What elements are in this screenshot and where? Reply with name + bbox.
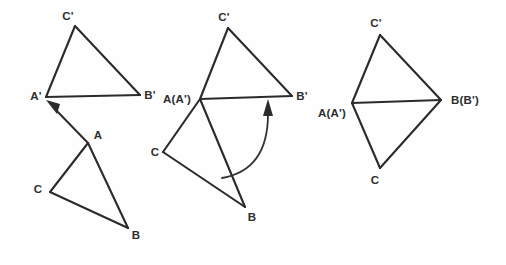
segment-c-prime-b-prime [75,26,140,95]
panel-result: C' A(A') B(B') C [318,17,479,186]
segment-a-prime-b-prime [352,100,441,103]
label-b-prime-panel2: B' [296,90,308,102]
panel-translation: C' A' B' A C B [30,10,156,241]
segment-a-c [50,143,88,192]
translation-vector-shaft [53,107,88,143]
segment-a-c [163,99,200,152]
segment-c-prime-b-prime [228,28,292,96]
triangle-abc [352,100,441,168]
segment-a-prime-c-prime [200,28,228,99]
label-b-b-prime-panel3: B(B') [451,94,479,106]
segment-a-c [352,103,380,168]
segment-c-prime-b-prime [380,35,441,100]
triangle-abc [163,99,245,207]
segment-a-prime-b-prime [200,96,292,99]
triangle-a-prime-b-prime-c-prime [46,26,140,97]
segment-a-prime-c-prime [352,35,380,103]
label-c-prime-panel1: C' [62,10,74,22]
segment-a-prime-b-prime [46,95,140,97]
rotation-arc [222,99,273,178]
triangle-a-prime-b-prime-c-prime [352,35,441,103]
segment-c-b [50,192,128,228]
label-c-panel2: C [151,146,160,158]
translation-vector [46,100,88,143]
label-b-prime-panel1: B' [144,89,156,101]
label-c-panel3: C [371,174,380,186]
rotation-arc-arrowhead [263,99,273,116]
triangle-a-prime-b-prime-c-prime [200,28,292,99]
segment-a-prime-c-prime [46,26,75,97]
label-c-panel1: C [34,183,43,195]
label-c-prime-panel2: C' [218,11,230,23]
geometry-figure: C' A' B' A C B [0,0,506,265]
label-b-panel1: B [132,229,141,241]
label-b-panel2: B [248,211,257,223]
figure-canvas: C' A' B' A C B [0,0,506,265]
segment-a-b [88,143,128,228]
triangle-abc [50,143,128,228]
label-c-prime-panel3: C' [370,17,382,29]
segment-c-b [380,100,441,168]
label-a-a-prime-panel2: A(A') [163,93,191,105]
label-a-a-prime-panel3: A(A') [318,107,346,119]
label-a-prime-panel1: A' [30,90,42,102]
label-a-panel1: A [94,129,103,141]
panel-rotation: C' A(A') B' C B [151,11,308,223]
